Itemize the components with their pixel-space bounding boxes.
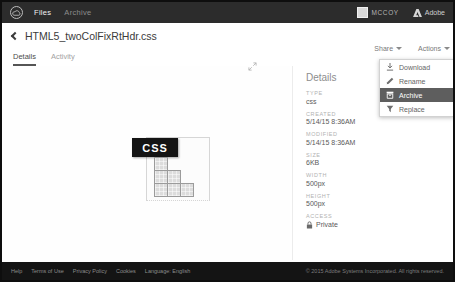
user-name[interactable]: MCCOY bbox=[372, 9, 399, 16]
field-created: CREATED 5/14/15 8:36AM bbox=[306, 111, 355, 126]
expand-icon bbox=[248, 62, 257, 71]
creative-cloud-logo-icon[interactable] bbox=[10, 6, 23, 19]
lock-icon bbox=[306, 221, 313, 229]
replace-icon bbox=[386, 105, 394, 113]
footer-link-cookies[interactable]: Cookies bbox=[116, 268, 136, 274]
file-action-buttons: Share Actions bbox=[302, 45, 450, 52]
block-tile bbox=[154, 170, 168, 184]
share-dropdown-button[interactable]: Share bbox=[374, 45, 402, 52]
file-type-badge: CSS bbox=[132, 138, 178, 157]
footer-link-terms[interactable]: Terms of Use bbox=[31, 268, 63, 274]
app-window: Files Archive MCCOY Adobe HTML5_twoColFi… bbox=[0, 0, 455, 282]
tab-bar: Details Activity bbox=[13, 52, 75, 66]
field-modified: MODIFIED 5/14/15 8:36AM bbox=[306, 131, 355, 146]
field-type: TYPE css bbox=[306, 90, 355, 105]
nav-item-files[interactable]: Files bbox=[34, 8, 51, 17]
field-value: 500px bbox=[306, 180, 355, 187]
user-avatar[interactable] bbox=[357, 7, 368, 18]
footer-link-help[interactable]: Help bbox=[11, 268, 22, 274]
chevron-down-icon bbox=[396, 47, 402, 50]
field-height: HEIGHT 500px bbox=[306, 193, 355, 208]
footer-bar: Help Terms of Use Privacy Policy Cookies… bbox=[2, 262, 453, 280]
menu-item-download[interactable]: Download bbox=[380, 60, 453, 74]
field-label: CREATED bbox=[306, 111, 355, 117]
block-tile bbox=[167, 183, 181, 197]
block-tile bbox=[154, 157, 168, 171]
field-value: Private bbox=[306, 221, 355, 229]
field-label: TYPE bbox=[306, 90, 355, 96]
actions-label: Actions bbox=[418, 45, 441, 52]
field-label: MODIFIED bbox=[306, 131, 355, 137]
field-label: WIDTH bbox=[306, 172, 355, 178]
footer-link-privacy[interactable]: Privacy Policy bbox=[73, 268, 107, 274]
panel-divider bbox=[292, 66, 293, 260]
access-value: Private bbox=[316, 221, 338, 228]
top-navigation-bar: Files Archive MCCOY Adobe bbox=[2, 2, 453, 23]
menu-item-label: Rename bbox=[399, 78, 425, 85]
field-value: 500px bbox=[306, 200, 355, 207]
footer-link-language[interactable]: Language: English bbox=[145, 268, 191, 274]
menu-item-label: Replace bbox=[399, 106, 425, 113]
download-icon bbox=[386, 63, 394, 71]
field-width: WIDTH 500px bbox=[306, 172, 355, 187]
share-label: Share bbox=[374, 45, 393, 52]
field-label: ACCESS bbox=[306, 213, 355, 219]
menu-item-replace[interactable]: Replace bbox=[380, 102, 453, 116]
copyright-text: © 2015 Adobe Systems Incorporated. All r… bbox=[306, 268, 444, 274]
css-file-thumbnail[interactable]: CSS bbox=[132, 136, 222, 206]
block-tile bbox=[167, 170, 181, 184]
fullscreen-toggle-button[interactable] bbox=[248, 57, 257, 75]
field-access: ACCESS Private bbox=[306, 213, 355, 229]
field-value: 5/14/15 8:36AM bbox=[306, 139, 355, 146]
rename-pencil-icon bbox=[386, 77, 394, 85]
chevron-down-icon bbox=[444, 47, 450, 50]
archive-box-icon bbox=[386, 91, 394, 99]
adobe-brand-label: Adobe bbox=[425, 9, 445, 16]
actions-dropdown-button[interactable]: Actions bbox=[418, 45, 450, 52]
field-value: css bbox=[306, 98, 355, 105]
field-value: 5/14/15 8:36AM bbox=[306, 118, 355, 125]
page-title: HTML5_twoColFixRtHdr.css bbox=[25, 30, 157, 42]
menu-item-archive[interactable]: Archive bbox=[380, 88, 453, 102]
tab-details[interactable]: Details bbox=[13, 52, 36, 66]
adobe-logo-icon bbox=[413, 9, 422, 17]
field-size: SIZE 6KB bbox=[306, 152, 355, 167]
adobe-brand: Adobe bbox=[413, 9, 445, 17]
file-preview-area: CSS bbox=[10, 66, 290, 260]
tab-activity[interactable]: Activity bbox=[51, 52, 75, 66]
field-label: SIZE bbox=[306, 152, 355, 158]
field-label: HEIGHT bbox=[306, 193, 355, 199]
details-panel-heading: Details bbox=[306, 72, 337, 83]
menu-item-rename[interactable]: Rename bbox=[380, 74, 453, 88]
nav-item-archive[interactable]: Archive bbox=[64, 8, 91, 17]
menu-item-label: Archive bbox=[399, 92, 422, 99]
document-header: HTML5_twoColFixRtHdr.css bbox=[12, 30, 157, 42]
back-button[interactable] bbox=[11, 32, 19, 40]
footer-links: Help Terms of Use Privacy Policy Cookies… bbox=[11, 268, 190, 274]
block-tile bbox=[154, 183, 168, 197]
field-value: 6KB bbox=[306, 159, 355, 166]
block-tile bbox=[180, 183, 194, 197]
details-field-list: TYPE css CREATED 5/14/15 8:36AM MODIFIED… bbox=[306, 90, 355, 229]
menu-item-label: Download bbox=[399, 64, 430, 71]
actions-dropdown-menu: Download Rename Archive Replace bbox=[379, 59, 454, 117]
